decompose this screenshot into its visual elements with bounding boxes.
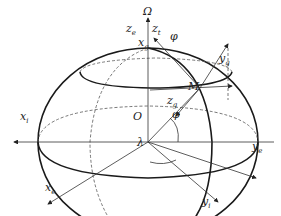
ye-axis <box>148 142 256 178</box>
zg-label: zg <box>166 94 178 109</box>
meridian-back <box>90 48 148 216</box>
yi-axis <box>148 142 218 202</box>
yi-label: yi <box>201 195 210 210</box>
ze-label: ze <box>125 22 136 37</box>
latitude-circle-back <box>80 58 232 72</box>
lambda-label: λ <box>136 136 144 149</box>
xg-label: xg <box>138 36 149 51</box>
xi-label: xi <box>20 110 28 125</box>
phi-center-label: φ <box>172 108 180 121</box>
origin-label: O <box>133 110 142 123</box>
zt-label: zt <box>151 22 161 37</box>
latitude-circle-front <box>80 72 232 88</box>
equator-front <box>38 142 258 178</box>
phi-arc <box>170 118 178 142</box>
xe-label: xe <box>45 181 55 196</box>
omega-label: Ω <box>142 5 152 18</box>
m-label: M <box>187 80 200 93</box>
ellipsoid-diagram: Ω ze zt xg φ yg M zg φ O xi λ ye yi xe <box>0 0 281 216</box>
phi-top-label: φ <box>170 30 178 43</box>
